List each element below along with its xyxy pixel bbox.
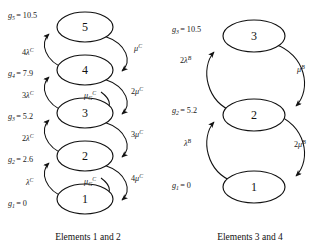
right-edge-up-2-to-3 — [207, 52, 234, 112]
right-edge-down-3-to-2 — [274, 44, 305, 106]
left-rate-label-up-2-to-3: 2λC — [22, 133, 34, 143]
left-state-label-2: 2 — [82, 149, 88, 163]
left-rate-label-down-4-to-3: 2μC — [131, 86, 143, 96]
left-state-value-2: g2= 2.6 — [8, 155, 33, 165]
right-diagram-caption: Elements 3 and 4 — [217, 232, 283, 242]
diagram-elements-3-and-4: 3 2 1 g3= 10.5 g2= 5.2 g1= 0 2λ — [172, 20, 306, 242]
left-rate-label-up-3-to-4: 3λC — [22, 90, 34, 100]
right-rate-label-up-1-to-2: λB — [183, 138, 192, 148]
left-state-label-5: 5 — [82, 20, 88, 34]
left-state-label-3: 3 — [82, 106, 88, 120]
right-state-value-3: g3= 10.5 — [172, 25, 201, 35]
right-state-value-1: g1= 0 — [172, 181, 191, 191]
left-state-value-3: g3= 5.2 — [8, 112, 33, 122]
left-rate-label-down-3-to-2: 3μC — [131, 129, 143, 139]
left-rate-label-down-5-to-4: μC — [133, 43, 142, 53]
left-rate-label-up-4-to-5: 4λC — [22, 47, 34, 57]
left-down-rate-labels: μC 2μC 3μC 4μC — [131, 43, 143, 183]
right-edge-up-1-to-2 — [207, 122, 234, 182]
right-rate-label-down-3-to-2: μB — [296, 64, 305, 74]
left-state-label-4: 4 — [82, 63, 88, 77]
right-up-rate-labels: 2λB λB — [180, 55, 192, 148]
right-state-value-labels: g3= 10.5 g2= 5.2 g1= 0 — [172, 25, 201, 191]
diagram-canvas: 5 4 3 2 1 g5= 10.5 g4= 7.9 g3= — [0, 0, 330, 250]
left-diagram-caption: Elements 1 and 2 — [55, 232, 121, 242]
right-state-nodes: 3 2 1 — [223, 20, 285, 203]
right-rate-label-up-2-to-3: 2λB — [180, 55, 192, 65]
right-state-value-2: g2= 5.2 — [172, 106, 197, 116]
diagram-elements-1-and-2: 5 4 3 2 1 g5= 10.5 g4= 7.9 g3= — [8, 11, 143, 242]
right-state-label-3: 3 — [251, 29, 257, 43]
left-state-label-1: 1 — [82, 192, 88, 206]
left-state-value-1: g1= 0 — [8, 199, 27, 209]
left-state-value-5: g5= 10.5 — [8, 11, 37, 21]
left-state-value-4: g4= 7.9 — [8, 69, 33, 79]
right-state-label-1: 1 — [251, 180, 257, 194]
right-state-label-2: 2 — [251, 108, 257, 122]
figure-root: 5 4 3 2 1 g5= 10.5 g4= 7.9 g3= — [0, 0, 330, 250]
left-rate-label-down-2-to-1: 4μC — [131, 173, 143, 183]
left-rate-label-up-1-to-2: λC — [25, 177, 34, 187]
